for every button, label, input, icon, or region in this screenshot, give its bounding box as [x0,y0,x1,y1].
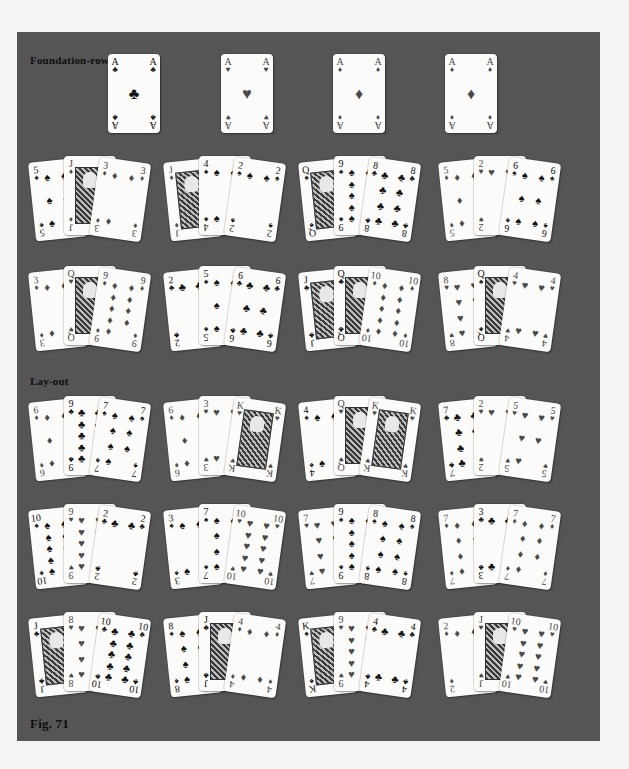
card-4-of-hearts: 4♥4♥4♥4♥♥♥♥♥ [499,267,561,352]
hearts-icon: ♥ [76,669,87,680]
spades-icon: ♠ [201,563,211,571]
spades-icon: ♠ [201,516,211,524]
spades-icon: ♠ [244,169,257,181]
card-index: 2♥ [476,215,486,232]
card-index: A♦ [447,113,457,130]
diamonds-icon: ♦ [395,282,408,294]
spades-icon: ♠ [106,425,119,437]
spades-icon: ♠ [336,516,346,524]
diamonds-icon: ♦ [122,304,135,316]
hearts-icon: ♥ [336,671,346,679]
diamonds-icon: ♦ [181,457,193,469]
diamonds-icon: ♦ [451,627,463,639]
card-10-of-hearts: 10♥10♥10♥10♥♥♥♥♥♥♥♥♥♥♥ [499,613,561,698]
spades-icon: ♠ [519,169,532,181]
card-index: 10♥ [547,621,559,639]
card-index: 5♠ [201,325,211,342]
clubs-icon: ♣ [119,673,132,685]
spades-icon: ♠ [211,530,222,541]
diamonds-icon: ♦ [389,327,402,339]
spades-icon: ♠ [181,565,193,577]
hearts-icon: ♥ [535,282,548,294]
spades-icon: ♠ [41,519,53,531]
clubs-icon: ♣ [137,522,148,531]
diamonds-icon: ♦ [272,630,283,639]
hearts-icon: ♥ [547,414,558,423]
hearts-icon: ♥ [336,624,346,632]
clubs-icon: ♣ [400,677,411,686]
spades-icon: ♠ [121,442,134,454]
card-10-of-hearts: 10♥10♥10♥10♥♥♥♥♥♥♥♥♥♥♥ [224,505,286,590]
hearts-icon: ♥ [529,327,542,339]
diamonds-icon: ♦ [46,327,58,339]
clubs-icon: ♣ [476,563,486,571]
card-index: 2♥ [476,455,486,472]
spades-icon: ♠ [201,168,211,176]
diamonds-icon: ♦ [456,565,468,577]
clubs-icon: ♣ [76,453,87,464]
diamonds-icon: ♦ [333,86,385,102]
diamonds-icon: ♦ [454,550,466,562]
spades-icon: ♠ [372,563,385,575]
card-index: 2♥ [476,159,486,176]
hearts-icon: ♥ [346,658,357,669]
card-index: 8♠ [407,513,419,531]
card-index: 10♦ [407,275,419,293]
clubs-icon: ♣ [451,411,463,423]
spades-icon: ♠ [407,522,418,531]
spades-icon: ♠ [346,538,357,549]
hearts-icon: ♥ [476,168,486,176]
spades-icon: ♠ [346,190,357,201]
card-index: 10♣ [137,621,149,639]
card-k-of-hearts: K♥K♥K♥K♥ [224,397,286,482]
clubs-icon: ♣ [372,215,385,227]
clubs-icon: ♣ [102,671,115,683]
spades-icon: ♠ [336,563,346,571]
hearts-icon: ♥ [221,86,273,102]
card-2-of-spades: 2♠2♠2♠2♠♠♠ [224,157,286,242]
spades-icon: ♠ [46,217,58,229]
spades-icon: ♠ [395,520,408,532]
hearts-icon: ♥ [512,671,525,683]
card-index: 4♠ [201,215,211,232]
spades-icon: ♠ [547,174,558,183]
spades-icon: ♠ [515,192,528,204]
spades-icon: ♠ [535,172,548,184]
card-index: A♦ [485,113,495,130]
clubs-icon: ♣ [407,174,418,183]
diamonds-icon: ♦ [260,628,273,640]
layout-label: Lay-out [30,375,69,387]
card-index: 9♣ [66,455,76,472]
spades-icon: ♠ [346,167,357,178]
spades-icon: ♠ [272,174,283,183]
diamonds-icon: ♦ [46,457,58,469]
card-index: A♦ [335,113,345,130]
card-index: 6♣ [272,275,284,293]
card-index: 2♥ [476,399,486,416]
hearts-icon: ♥ [76,527,87,538]
hearts-icon: ♥ [254,565,267,577]
diamonds-icon: ♦ [512,563,525,575]
card-index: 9♥ [336,671,346,688]
clubs-icon: ♣ [254,327,267,339]
clubs-icon: ♣ [389,217,402,229]
card-5-of-hearts: 5♥5♥5♥5♥♥♥♥♥♥ [499,397,561,482]
hearts-icon: ♥ [66,624,76,632]
spades-icon: ♠ [201,325,211,333]
hearts-icon: ♥ [314,550,326,562]
card-index: 3♥ [201,399,211,416]
card-index: 9♦ [137,275,149,293]
clubs-icon: ♣ [257,304,270,316]
hearts-icon: ♥ [66,563,76,571]
card-index: 5♥ [547,405,559,423]
hearts-icon: ♥ [476,408,486,416]
spades-icon: ♠ [346,179,357,190]
diamonds-icon: ♦ [120,316,133,328]
clubs-icon: ♣ [395,172,408,184]
spades-icon: ♠ [181,673,193,685]
card-index: 9♥ [336,615,346,632]
card-index: 9♠ [336,159,346,176]
hearts-icon: ♥ [76,515,87,526]
spades-icon: ♠ [376,533,389,545]
hearts-icon: ♥ [547,284,558,293]
